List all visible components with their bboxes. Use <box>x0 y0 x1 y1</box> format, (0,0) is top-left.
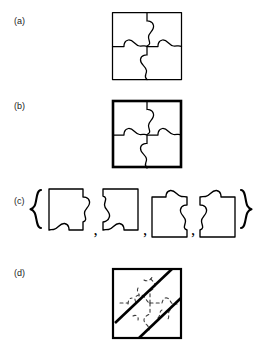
panel-b: (b) <box>0 90 268 180</box>
figure-root: (a) (b) <box>0 0 268 351</box>
puzzle-piece-2 <box>103 189 138 230</box>
panel-d: (d) <box>0 258 268 351</box>
panel-c-graphic: , , , <box>0 180 268 258</box>
separator-comma-1: , <box>94 220 98 239</box>
separator-comma-2: , <box>143 220 147 239</box>
panel-a-graphic <box>0 0 268 90</box>
puzzle-piece-3 <box>152 190 187 237</box>
cross-out-lines <box>115 269 181 338</box>
panel-a: (a) <box>0 0 268 90</box>
panel-d-graphic <box>0 258 268 351</box>
puzzle-piece-4 <box>200 190 235 237</box>
close-brace-icon <box>241 190 252 228</box>
open-brace-icon <box>31 190 42 228</box>
panel-c: (c) , , <box>0 180 268 258</box>
panel-b-graphic <box>0 90 268 180</box>
puzzle-piece-1 <box>49 189 90 230</box>
separator-comma-3: , <box>191 220 195 239</box>
